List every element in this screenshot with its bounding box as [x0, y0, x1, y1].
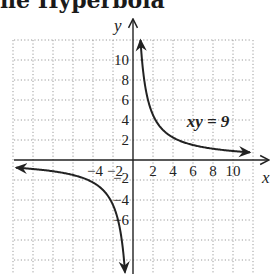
- y-tick-label: −4: [113, 192, 129, 208]
- y-tick-label: 6: [122, 92, 130, 108]
- hyperbola-branch-left: [16, 168, 125, 273]
- x-axis-label: x: [261, 168, 270, 187]
- hyperbola-branch-right: [141, 40, 251, 152]
- y-tick-label: −2: [113, 170, 129, 186]
- y-tick-label: 8: [122, 72, 130, 88]
- y-axis-label: y: [112, 16, 122, 35]
- y-tick-label: 4: [122, 112, 130, 128]
- y-tick-label: 10: [114, 52, 129, 68]
- hyperbola-plot: yx −4−2246810108642−2−4−6 xy = 9: [0, 0, 270, 274]
- x-tick-label: 6: [189, 163, 197, 179]
- equation-annotation: xy = 9: [186, 112, 230, 131]
- equation-label: xy = 9: [186, 112, 230, 131]
- x-tick-label: 10: [226, 163, 241, 179]
- x-tick-label: 2: [149, 163, 157, 179]
- x-tick-label: 8: [209, 163, 217, 179]
- y-tick-label: 2: [122, 132, 130, 148]
- x-tick-label: 4: [169, 163, 177, 179]
- x-tick-label: −4: [87, 163, 103, 179]
